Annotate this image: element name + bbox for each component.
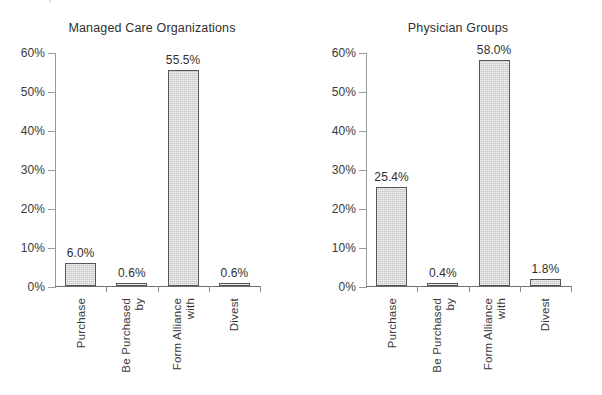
x-axis-category-label: Be Purchasedby <box>430 298 455 373</box>
chart-title: Physician Groups <box>301 21 602 35</box>
y-axis-tick <box>359 53 367 54</box>
y-axis-tick <box>359 92 367 93</box>
x-axis-category-label-line: with <box>495 298 507 319</box>
x-axis-category-label: Form Alliancewith <box>171 298 196 370</box>
bar <box>219 283 250 286</box>
x-axis-category-label: Divest <box>228 298 240 331</box>
bar-value-label: 0.6% <box>118 266 146 280</box>
x-axis-category-label-line: Be Purchased <box>430 298 442 373</box>
x-axis-tick <box>106 286 107 292</box>
y-axis-tick <box>359 170 367 171</box>
x-axis-category-label: Form Alliancewith <box>482 298 507 370</box>
bar <box>479 60 510 286</box>
y-axis-tick <box>48 287 56 288</box>
y-axis-tick <box>48 92 56 93</box>
bar-value-label: 0.6% <box>220 266 248 280</box>
x-axis-category-label-line: Divest <box>539 298 551 331</box>
x-axis-category-label: Divest <box>539 298 551 331</box>
y-axis-tick-label: 50% <box>332 85 356 99</box>
y-axis-tick <box>48 248 56 249</box>
y-axis-tick-label: 40% <box>21 124 45 138</box>
y-axis-tick-label: 20% <box>21 202 45 216</box>
chart-panel-managed-care-organizations: Managed Care Organizations 0%10%20%30%40… <box>0 0 301 395</box>
bar <box>376 187 407 286</box>
x-axis-category-label: Purchase <box>386 298 398 348</box>
y-axis-tick-label: 10% <box>21 241 45 255</box>
x-axis-tick <box>520 286 521 292</box>
x-axis-category-label-line: Be Purchased <box>119 298 131 373</box>
x-axis-tick <box>571 286 572 292</box>
y-axis-tick <box>48 170 56 171</box>
y-axis-tick <box>359 248 367 249</box>
x-axis-category-label-line: by <box>443 298 455 311</box>
x-axis-category-label-line: Purchase <box>386 298 398 348</box>
x-axis-category-label-line: Divest <box>228 298 240 331</box>
y-axis-tick-label: 40% <box>332 124 356 138</box>
bar-value-label: 58.0% <box>477 43 512 57</box>
x-axis-tick <box>158 286 159 292</box>
x-axis-tick <box>209 286 210 292</box>
x-axis-category-label-line: with <box>184 298 196 319</box>
y-axis-tick <box>359 209 367 210</box>
x-axis-category-label-line: Purchase <box>75 298 87 348</box>
bar <box>427 283 458 286</box>
y-axis-tick <box>48 131 56 132</box>
y-axis-tick-label: 0% <box>27 280 45 294</box>
x-axis-category-label: Be Purchasedby <box>119 298 144 373</box>
plot-area: 0%10%20%30%40%50%60%25.4%Purchase0.4%Be … <box>366 53 571 287</box>
bar <box>116 283 147 286</box>
y-axis-tick <box>359 131 367 132</box>
bar <box>530 279 561 286</box>
y-axis-tick-label: 30% <box>332 163 356 177</box>
y-axis-tick-label: 10% <box>332 241 356 255</box>
y-axis-tick-label: 60% <box>21 46 45 60</box>
x-axis-category-label-line: Form Alliance <box>482 298 494 370</box>
bar <box>65 263 96 286</box>
bar-value-label: 0.4% <box>429 266 457 280</box>
y-axis-tick-label: 60% <box>332 46 356 60</box>
chart-title: Managed Care Organizations <box>0 21 301 35</box>
x-axis-tick <box>469 286 470 292</box>
y-axis-tick-label: 0% <box>338 280 356 294</box>
x-axis-category-label-line: Form Alliance <box>171 298 183 370</box>
y-axis-tick-label: 50% <box>21 85 45 99</box>
x-axis-tick <box>417 286 418 292</box>
y-axis-tick-label: 30% <box>21 163 45 177</box>
chart-panel-physician-groups: Physician Groups 0%10%20%30%40%50%60%25.… <box>301 0 602 395</box>
x-axis-category-label-line: by <box>132 298 144 311</box>
bar-value-label: 55.5% <box>166 53 201 67</box>
y-axis-tick <box>48 209 56 210</box>
bar-value-label: 25.4% <box>374 170 409 184</box>
x-axis-tick <box>260 286 261 292</box>
y-axis-tick <box>48 53 56 54</box>
x-axis-category-label: Purchase <box>75 298 87 348</box>
bar <box>168 70 199 286</box>
bar-value-label: 6.0% <box>67 246 95 260</box>
plot-area: 0%10%20%30%40%50%60%6.0%Purchase0.6%Be P… <box>55 53 260 287</box>
y-axis-tick-label: 20% <box>332 202 356 216</box>
y-axis-tick <box>359 287 367 288</box>
bar-value-label: 1.8% <box>531 262 559 276</box>
